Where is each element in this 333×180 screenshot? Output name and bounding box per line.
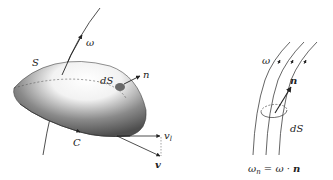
vortex-line-3-arrow-icon: [304, 60, 306, 64]
vortex-line-2: [266, 42, 304, 155]
area-element-label: dS: [100, 75, 113, 86]
area-element-patch: [115, 83, 125, 91]
velocity-arrow: [117, 136, 160, 156]
vorticity-diagram: ω S dS n C vl v ω n dS: [0, 0, 333, 180]
surface-s: [14, 61, 147, 136]
right-figure: ω n dS ωn = ω · n: [248, 42, 317, 176]
surface-label: S: [32, 57, 39, 68]
normal-label: n: [143, 69, 149, 80]
velocity-label: v: [155, 159, 161, 170]
omega-label: ω: [86, 37, 94, 48]
normal-arrow-right: [275, 87, 291, 113]
tangential-velocity-label: vl: [164, 130, 172, 143]
vortex-line-3: [279, 42, 317, 155]
area-element-ellipse-back: [261, 104, 287, 112]
normal-label-right: n: [290, 75, 297, 86]
curve-label: C: [73, 137, 81, 148]
left-figure: ω S dS n C vl v: [14, 8, 172, 170]
normal-vorticity-equation: ωn = ω · n: [248, 163, 300, 176]
omega-label-right: ω: [262, 55, 270, 66]
vortex-line-2-arrow-icon: [291, 60, 293, 64]
area-element-label-right: dS: [290, 123, 303, 134]
vortex-line-1-arrow-icon: [278, 60, 280, 64]
